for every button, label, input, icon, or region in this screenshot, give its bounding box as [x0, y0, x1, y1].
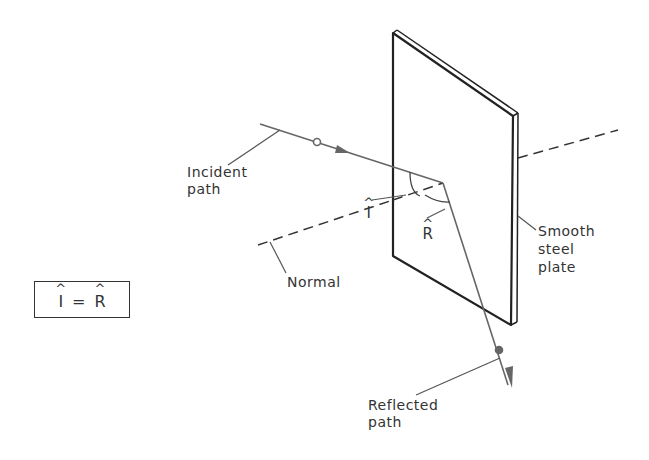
reflected-path-label: Reflected path	[368, 397, 438, 431]
formula-operator: =	[72, 292, 85, 311]
plate-label: Smooth steel plate	[538, 222, 595, 276]
angle-reflection-symbol: R	[423, 226, 434, 243]
angle-reflection-label: R	[412, 209, 433, 243]
formula-left: I	[58, 292, 63, 311]
normal-label: Normal	[287, 274, 341, 291]
incident-path-label: Incident path	[187, 164, 247, 198]
steel-plate	[393, 30, 518, 325]
angle-incidence-label: I	[356, 188, 371, 222]
reflection-law-formula: I = R	[34, 281, 130, 318]
formula-right: R	[95, 292, 106, 311]
angle-incidence-symbol: I	[367, 205, 372, 222]
